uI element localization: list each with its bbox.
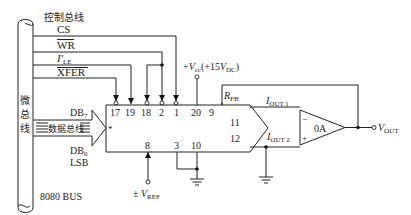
star-mark: * [108,124,113,134]
iout-lines: IOUT 1 IOUT 2 [250,95,300,183]
vref-label: ± VREF [133,188,160,201]
vref-input: ± VREF [133,152,160,201]
data-bus-arrow: 数据总线 DB7 DB0 LSB [33,107,106,168]
opamp-plus: + [302,133,307,143]
db7-label: DB7 [70,107,88,120]
opamp-label: 0A [314,123,327,134]
pin-17: 17 [110,107,120,118]
pin-12: 12 [230,133,240,144]
iout2-label: IOUT 2 [266,131,290,144]
ile-label: I'LE [56,52,72,66]
cs-label: CS [57,23,70,35]
control-bus-label: 控制总线 [44,11,84,23]
vcc-label: +Vcc(+15VDC) [183,61,239,74]
pin-9: 9 [209,107,214,118]
pin-1: 1 [174,107,179,118]
dac-interface-diagram: 微 总 线 8080 BUS 控制总线 CS WR I'LE XFER [0,0,411,215]
wr-label: WR [57,39,75,51]
rfb-feedback: RFB [222,85,358,127]
bus-vertical-label-2: 总 [20,108,30,120]
control-lines: CS WR I'LE XFER [33,23,179,105]
pin-20: 20 [191,107,201,118]
pin-3: 3 [174,140,179,151]
opamp-minus: − [302,114,307,124]
bus-vertical-label-1: 微 [20,94,30,106]
vout-label: VOUT [378,122,399,135]
bus-name: 8080 BUS [40,191,82,202]
pin-19: 19 [125,107,135,118]
op-amp: 0A − + VOUT [300,110,399,145]
pin-18: 18 [141,107,151,118]
chip-ground [177,152,204,185]
iout1-label: IOUT 1 [265,95,289,108]
pin-11: 11 [230,117,240,128]
pin-8: 8 [145,140,150,151]
dac-chip: 17 19 18 2 1 20 9 11 12 8 3 10 * [106,103,268,152]
rfb-label: RFB [223,90,239,103]
pin-2: 2 [159,107,164,118]
lsb-label: LSB [70,157,89,168]
data-bus-label: 数据总线 [48,123,84,134]
pin-10: 10 [191,140,201,151]
bus-vertical-label-3: 线 [20,122,30,134]
